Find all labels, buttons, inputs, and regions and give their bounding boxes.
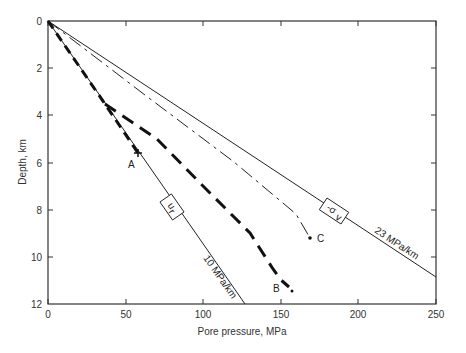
label-a: A: [128, 159, 135, 170]
svg-text:2: 2: [36, 63, 42, 74]
svg-text:100: 100: [195, 309, 212, 320]
x-ticks: [48, 21, 436, 304]
svg-text:0: 0: [45, 309, 51, 320]
x-tick-labels: 0 50 100 150 200 250: [45, 309, 445, 320]
svg-text:150: 150: [273, 309, 290, 320]
label-b: B: [273, 283, 280, 294]
x-axis-title: Pore pressure, MPa: [198, 326, 287, 337]
svg-text:0: 0: [36, 16, 42, 27]
curve-c-endpoint: [308, 236, 312, 240]
curve-b: [105, 104, 289, 287]
svg-text:6: 6: [36, 158, 42, 169]
depth-pressure-chart: 0 50 100 150 200 250 0 2 4 6 8 10 12 Por…: [0, 0, 466, 353]
y-tick-labels: 0 2 4 6 8 10 12: [31, 16, 43, 310]
curve-b-endpoint: [291, 290, 294, 293]
plot-frame: [48, 21, 436, 304]
svg-text:10: 10: [31, 252, 43, 263]
hydro-box-label: u r: [159, 194, 184, 221]
svg-text:12: 12: [31, 299, 43, 310]
label-c: C: [317, 233, 324, 244]
y-axis-title: Depth, km: [17, 139, 28, 185]
litho-rate-label: 23 MPa/km: [373, 224, 421, 261]
lithostatic-line: [48, 21, 436, 277]
svg-text:250: 250: [428, 309, 445, 320]
hydro-rate-label: 10 MPa/km: [201, 253, 239, 301]
curve-a: [48, 21, 138, 153]
svg-text:200: 200: [350, 309, 367, 320]
svg-text:4: 4: [36, 110, 42, 121]
svg-text:50: 50: [120, 309, 132, 320]
svg-text:8: 8: [36, 205, 42, 216]
